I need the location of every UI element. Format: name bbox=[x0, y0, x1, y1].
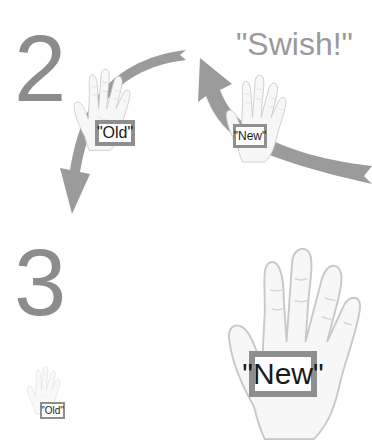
old-label-box: "Old" bbox=[95, 120, 135, 146]
new-label-box-large: "New" bbox=[249, 351, 317, 397]
step-number-2: 2 bbox=[14, 22, 66, 116]
swish-caption: "Swish!" bbox=[236, 28, 353, 60]
new-label-box: "New" bbox=[233, 124, 267, 148]
open-hand-icon-new-large bbox=[229, 249, 360, 439]
step-number-3: 3 bbox=[14, 236, 66, 330]
gesture-illustration: 2 "Swish!" "Old" "New" 3 "Old" "New" bbox=[0, 0, 372, 442]
old-label-box-small: "Old" bbox=[40, 402, 65, 419]
curved-arrow-up-left-icon bbox=[198, 58, 372, 184]
